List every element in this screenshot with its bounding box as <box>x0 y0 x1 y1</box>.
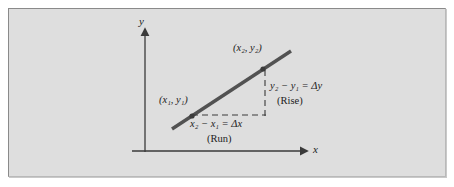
point2-label: (x₂, y₂) <box>233 43 262 54</box>
rise-equation-label: y₂ − y₁ = Δy <box>270 81 322 92</box>
run-equation-label: x₂ − x₁ = Δx <box>190 119 242 130</box>
x-axis-label: x <box>313 144 318 155</box>
rise-word-label: (Rise) <box>277 96 303 107</box>
figure-panel <box>8 8 446 177</box>
point1-label: (x₁, y₁) <box>159 95 188 106</box>
run-word-label: (Run) <box>207 134 232 145</box>
y-axis-label: y <box>139 16 144 27</box>
figure-screenshot: y x (x₂, y₂) (x₁, y₁) y₂ − y₁ = Δy (Rise… <box>0 0 454 187</box>
